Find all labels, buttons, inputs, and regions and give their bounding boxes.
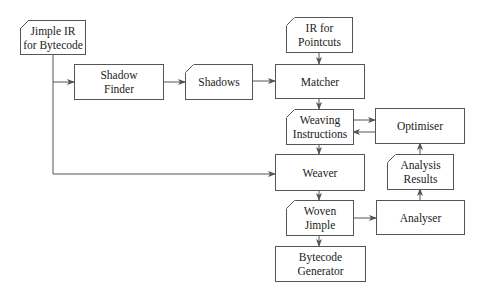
node-label: Shadow Finder bbox=[100, 68, 137, 96]
doc-fold-icon bbox=[20, 20, 29, 29]
doc-fold-icon bbox=[286, 109, 295, 118]
node-jimple-ir: Jimple IR for Bytecode bbox=[20, 20, 86, 55]
node-analyser: Analyser bbox=[376, 200, 465, 235]
node-label: IR for Pointcuts bbox=[298, 21, 341, 49]
node-label: Weaver bbox=[303, 166, 338, 180]
node-analysis-results: Analysis Results bbox=[387, 154, 454, 190]
node-label: Optimiser bbox=[397, 119, 443, 133]
node-shadows: Shadows bbox=[185, 64, 253, 100]
doc-fold-icon bbox=[185, 64, 194, 73]
node-optimiser: Optimiser bbox=[375, 108, 465, 144]
node-weaving-instructions: Weaving Instructions bbox=[286, 109, 354, 145]
doc-fold-icon bbox=[286, 200, 295, 209]
node-label: Woven Jimple bbox=[304, 204, 336, 232]
doc-fold-icon bbox=[286, 17, 295, 26]
node-label: Shadows bbox=[198, 75, 240, 89]
node-ir-pointcuts: IR for Pointcuts bbox=[286, 17, 353, 53]
node-label: Matcher bbox=[301, 75, 339, 89]
node-label: Weaving Instructions bbox=[293, 113, 347, 141]
node-label: Analysis Results bbox=[400, 158, 440, 186]
node-bytecode-generator: Bytecode Generator bbox=[275, 246, 366, 282]
node-woven-jimple: Woven Jimple bbox=[286, 200, 354, 236]
node-shadow-finder: Shadow Finder bbox=[74, 64, 164, 100]
node-matcher: Matcher bbox=[275, 64, 365, 99]
node-label: Jimple IR for Bytecode bbox=[23, 24, 83, 52]
node-label: Bytecode Generator bbox=[298, 250, 344, 278]
node-weaver: Weaver bbox=[275, 154, 365, 191]
node-label: Analyser bbox=[400, 211, 442, 225]
doc-fold-icon bbox=[387, 154, 396, 163]
